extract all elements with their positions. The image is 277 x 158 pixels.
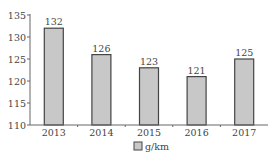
bars: 132126123121125 [44, 16, 253, 125]
x-tick-label: 2015 [137, 127, 161, 138]
bar-chart: 110115120125130135 132126123121125 20132… [0, 0, 277, 158]
x-axis: 20132014201520162017 [30, 125, 268, 138]
y-tick-label: 125 [8, 54, 26, 65]
x-tick-label: 2017 [232, 127, 256, 138]
y-tick-label: 120 [8, 76, 26, 87]
x-tick-label: 2016 [185, 127, 209, 138]
y-tick-label: 115 [8, 98, 26, 109]
legend-label: g/km [145, 141, 169, 152]
y-tick-label: 110 [8, 120, 26, 131]
data-label: 132 [45, 16, 63, 27]
legend-swatch [134, 142, 142, 150]
legend: g/km [134, 141, 169, 152]
y-axis: 110115120125130135 [8, 10, 30, 131]
bar-2013 [44, 28, 63, 125]
bar-2014 [92, 55, 111, 125]
bar-2017 [235, 59, 254, 125]
y-tick-label: 135 [8, 10, 26, 21]
y-tick-label: 130 [8, 32, 26, 43]
data-label: 126 [92, 43, 110, 54]
x-tick-label: 2013 [42, 127, 66, 138]
data-label: 125 [235, 47, 253, 58]
bar-2015 [140, 68, 159, 125]
x-tick-label: 2014 [89, 127, 113, 138]
data-label: 123 [140, 56, 158, 67]
bar-2016 [187, 77, 206, 125]
data-label: 121 [188, 65, 206, 76]
